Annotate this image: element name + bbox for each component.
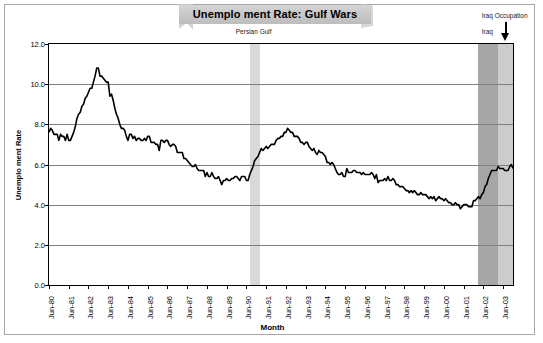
x-tick-mark-Jun-92 <box>286 285 287 289</box>
x-tick-mark-Jun-84 <box>128 285 129 289</box>
x-tick-label-Jun-87: Jun-87 <box>185 296 194 319</box>
x-tick-label-Jun-80: Jun-80 <box>47 296 56 319</box>
x-tick-mark-Jun-03 <box>503 285 504 289</box>
x-tick-label-Jun-91: Jun-91 <box>264 296 273 319</box>
down-arrow-icon <box>501 22 510 42</box>
x-tick-mark-Jun-98 <box>404 285 405 289</box>
x-tick-label-Jun-00: Jun-00 <box>441 296 450 319</box>
x-tick-label-Jun-03: Jun-03 <box>501 296 510 319</box>
x-tick-mark-Jun-85 <box>148 285 149 289</box>
x-tick-mark-Jun-93 <box>306 285 307 289</box>
plot-area: 0.02.04.06.08.010.012.0 <box>48 43 514 286</box>
x-tick-mark-Jun-99 <box>424 285 425 289</box>
x-tick-label-Jun-92: Jun-92 <box>283 296 292 319</box>
annotation-iraq: Iraq <box>473 28 501 35</box>
x-tick-mark-Jun-00 <box>444 285 445 289</box>
x-tick-mark-Jun-81 <box>69 285 70 289</box>
x-tick-label-Jun-81: Jun-81 <box>66 296 75 319</box>
y-tick-label-2: 2.0 <box>35 240 45 249</box>
x-tick-label-Jun-99: Jun-99 <box>422 296 431 319</box>
x-tick-label-Jun-96: Jun-96 <box>362 296 371 319</box>
x-tick-mark-Jun-01 <box>464 285 465 289</box>
x-tick-mark-Jun-97 <box>385 285 386 289</box>
x-tick-label-Jun-94: Jun-94 <box>323 296 332 319</box>
y-tick-label-8: 8.0 <box>35 120 45 129</box>
y-axis-title: Unemplo ment Rate <box>12 43 24 286</box>
x-tick-label-Jun-97: Jun-97 <box>382 296 391 319</box>
x-tick-label-Jun-02: Jun-02 <box>481 296 490 319</box>
y-tick-label-0: 0.0 <box>35 281 45 290</box>
series-line-unemployment-rate <box>49 44 513 285</box>
x-tick-mark-Jun-80 <box>49 285 50 289</box>
x-tick-label-Jun-88: Jun-88 <box>204 296 213 319</box>
x-tick-label-Jun-89: Jun-89 <box>224 296 233 319</box>
x-tick-label-Jun-83: Jun-83 <box>106 296 115 319</box>
annotation-persian-gulf: Persian Gulf <box>228 28 280 35</box>
x-tick-mark-Jun-82 <box>88 285 89 289</box>
y-tick-label-6: 6.0 <box>35 160 45 169</box>
x-tick-mark-Jun-86 <box>167 285 168 289</box>
x-tick-mark-Jun-02 <box>483 285 484 289</box>
chart-title: Unemplo ment Rate: Gulf Wars <box>179 4 371 25</box>
x-tick-label-Jun-93: Jun-93 <box>303 296 312 319</box>
x-axis-title: Month <box>1 323 543 332</box>
x-tick-mark-Jun-96 <box>365 285 366 289</box>
x-tick-mark-Jun-87 <box>187 285 188 289</box>
x-tick-mark-Jun-83 <box>108 285 109 289</box>
y-axis-title-text: Unemplo ment Rate <box>14 129 23 199</box>
x-tick-mark-Jun-91 <box>266 285 267 289</box>
x-tick-mark-Jun-90 <box>246 285 247 289</box>
chart-title-banner: Unemplo ment Rate: Gulf Wars <box>179 4 371 25</box>
x-tick-label-Jun-95: Jun-95 <box>343 296 352 319</box>
chart-frame: Unemplo ment Rate: Gulf Wars Unemplo men… <box>4 4 535 335</box>
x-tick-label-Jun-86: Jun-86 <box>165 296 174 319</box>
x-tick-label-Jun-85: Jun-85 <box>145 296 154 319</box>
x-tick-mark-Jun-88 <box>207 285 208 289</box>
x-tick-label-Jun-90: Jun-90 <box>244 296 253 319</box>
x-tick-label-Jun-84: Jun-84 <box>125 296 134 319</box>
x-tick-mark-Jun-95 <box>345 285 346 289</box>
x-tick-mark-Jun-94 <box>325 285 326 289</box>
y-tick-label-10: 10.0 <box>30 80 45 89</box>
x-tick-label-Jun-98: Jun-98 <box>402 296 411 319</box>
x-tick-label-Jun-82: Jun-82 <box>86 296 95 319</box>
y-tick-label-4: 4.0 <box>35 200 45 209</box>
y-tick-label-12: 12.0 <box>30 40 45 49</box>
x-tick-mark-Jun-89 <box>227 285 228 289</box>
x-tick-label-Jun-01: Jun-01 <box>461 296 470 319</box>
annotation-iraq-occupation: Iraq Occupation <box>471 12 539 19</box>
